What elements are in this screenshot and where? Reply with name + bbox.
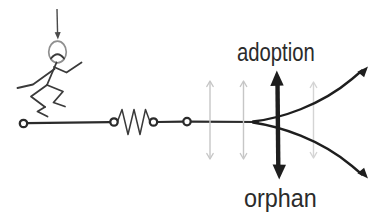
branch-arrowhead-icon [357,67,368,78]
branch-arrow-lower [253,123,368,179]
node-circle-icon [150,118,157,125]
bifurcation-diagram: adoption orphan [0,0,391,213]
orphan-label: orphan [244,185,317,211]
fluctuation-arrow-icon [310,82,316,158]
down-arrow-icon [55,9,61,40]
fluctuation-arrow-icon [240,81,246,159]
back-leg [31,85,47,107]
back-foot [38,107,48,117]
running-person-icon [18,41,82,116]
diagram-artwork [0,0,391,213]
resistor-icon [118,110,151,135]
node-circle-icon [20,120,27,127]
head [49,41,67,63]
node-circle-icon [110,118,117,125]
double-headed-arrow-icon [270,71,286,180]
fluctuation-arrow-icon [207,81,213,159]
adoption-label: adoption [237,39,315,65]
branch-arrow-upper [253,67,368,122]
front-leg [47,85,65,107]
branch-arrowhead-icon [357,168,368,179]
node-circle-icon [183,118,190,125]
front-arm [54,63,82,73]
